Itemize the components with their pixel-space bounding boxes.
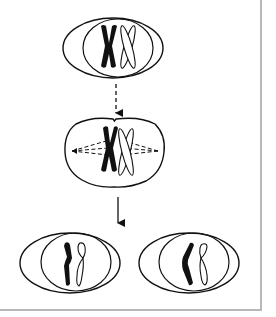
left-pole-icon [72, 148, 77, 154]
dark-chromosome-icon [101, 25, 117, 68]
nuclear-envelope [159, 233, 229, 291]
daughter-cell-right [139, 233, 239, 293]
light-chromosome-icon [118, 25, 138, 70]
cell-division-diagram [0, 0, 276, 317]
dark-chromosome-icon [101, 126, 118, 172]
nuclear-envelope [41, 233, 111, 291]
metaphase-cell [65, 118, 164, 187]
daughter-cell-left [20, 233, 120, 293]
parent-cell [63, 18, 163, 78]
light-chromosome-icon [116, 128, 136, 176]
light-chromatid-icon [200, 244, 208, 285]
dark-chromatid-icon [64, 242, 72, 285]
nuclear-envelope [83, 19, 153, 77]
light-chromatid-icon [77, 243, 86, 286]
spindle-fibers [72, 141, 158, 155]
dark-chromatid-icon [182, 243, 194, 286]
